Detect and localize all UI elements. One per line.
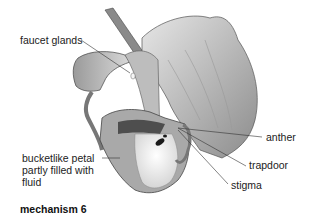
label-bucketlike-petal-1: bucketlike petal bbox=[22, 152, 94, 164]
left-stalk bbox=[86, 92, 102, 150]
label-faucet-glands: faucet glands bbox=[20, 34, 82, 46]
faucet-droplet bbox=[131, 73, 135, 79]
label-bucketlike-petal-3: fluid bbox=[22, 176, 41, 188]
hood-petal bbox=[73, 52, 130, 92]
label-stigma: stigma bbox=[231, 179, 262, 191]
figure-caption: mechanism 6 bbox=[20, 203, 87, 215]
label-anther: anther bbox=[266, 131, 296, 143]
label-trapdoor: trapdoor bbox=[249, 159, 288, 171]
fluid bbox=[135, 134, 178, 188]
label-bucketlike-petal-2: partly filled with bbox=[22, 164, 94, 176]
bucket-orchid-illustration bbox=[0, 0, 315, 216]
